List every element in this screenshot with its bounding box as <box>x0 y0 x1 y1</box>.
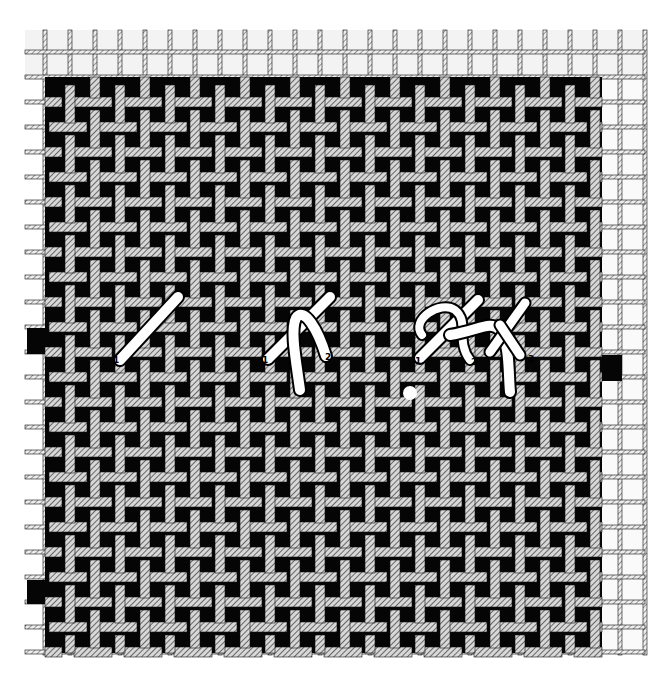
stitch-2-label-2: 2 <box>325 352 331 362</box>
stitch-3-label-2: 2 <box>471 357 477 367</box>
start-dot <box>403 386 417 400</box>
stitch-diagram: 1 1 2 1 2 3 <box>0 0 670 682</box>
stitch-1-label-1: 1 <box>113 355 119 365</box>
diagram-svg: 1 1 2 1 2 3 <box>0 0 670 682</box>
stitch-3-label-3: 3 <box>528 354 534 364</box>
stitch-3-label-1: 1 <box>415 356 421 366</box>
stitch-2-label-1: 1 <box>262 355 268 365</box>
